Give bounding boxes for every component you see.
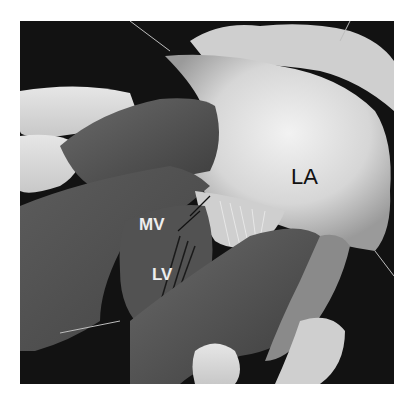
label-left-ventricle: LV [152,266,172,283]
finger-bottom [193,344,241,385]
heart-illustration [20,21,394,384]
label-left-atrium: LA [291,166,318,188]
heart-dissection-photo [20,21,394,384]
label-mitral-valve: MV [139,216,165,233]
